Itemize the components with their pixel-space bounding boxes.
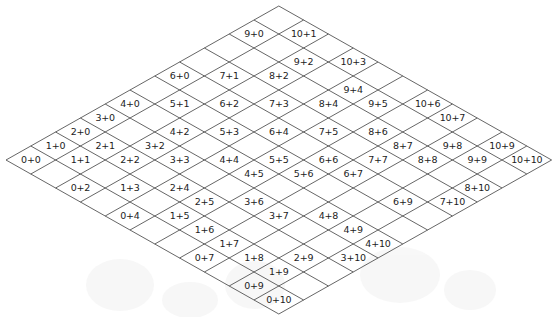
lattice-cell-label: 6+7: [343, 168, 363, 179]
lattice-cell-label: 9+5: [368, 98, 388, 109]
lattice-cell-label: 10+1: [291, 28, 316, 39]
lattice-cell-label: 3+2: [145, 140, 165, 151]
lattice-cell-label: 9+9: [467, 154, 487, 165]
lattice-cell-label: 9+2: [294, 56, 314, 67]
lattice-cell-label: 7+3: [269, 98, 289, 109]
lattice-cell-label: 4+0: [120, 98, 140, 109]
lattice-cell-label: 5+1: [170, 98, 190, 109]
lattice-cell-label: 3+10: [341, 252, 366, 263]
lattice-cell-label: 4+8: [319, 210, 339, 221]
lattice-cell-label: 1+5: [170, 210, 190, 221]
lattice-cell-label: 3+6: [244, 196, 264, 207]
lattice-cell-label: 2+2: [120, 154, 140, 165]
lattice-cell-label: 2+4: [170, 182, 190, 193]
lattice-cell-label: 8+8: [418, 154, 438, 165]
lattice-cell-label: 4+10: [365, 238, 390, 249]
lattice-cell-label: 3+0: [95, 112, 115, 123]
lattice-cell-label: 2+5: [195, 196, 215, 207]
lattice-cell-label: 5+3: [219, 126, 239, 137]
lattice-cell-label: 1+6: [195, 224, 215, 235]
lattice-cell-label: 10+3: [341, 56, 366, 67]
lattice-cell-label: 1+8: [244, 252, 264, 263]
lattice-cell-label: 6+6: [319, 154, 339, 165]
lattice-cell-label: 1+3: [120, 182, 140, 193]
lattice-cell-label: 10+7: [440, 112, 465, 123]
lattice-cell-label: 6+9: [393, 196, 413, 207]
lattice-cell-label: 1+0: [46, 140, 66, 151]
lattice-cell-label: 9+8: [443, 140, 463, 151]
lattice-cell-label: 4+5: [244, 168, 264, 179]
lattice-cell-label: 8+2: [269, 70, 289, 81]
lattice-cell-label: 0+10: [266, 294, 291, 305]
lattice-cell-label: 7+5: [319, 126, 339, 137]
lattice-cell-label: 9+4: [343, 84, 363, 95]
lattice-cell-label: 7+1: [219, 70, 239, 81]
lattice-cell-label: 10+6: [415, 98, 440, 109]
lattice-cell-label: 8+7: [393, 140, 413, 151]
lattice-cell-label: 5+5: [269, 154, 289, 165]
lattice-cell-label: 7+7: [368, 154, 388, 165]
lattice-cell-label: 2+1: [95, 140, 115, 151]
lattice-cell-label: 2+0: [71, 126, 91, 137]
lattice-cell-label: 1+9: [269, 266, 289, 277]
rhombus-lattice-diagram: 0+01+01+10+22+02+12+21+30+43+03+23+32+41…: [0, 0, 556, 317]
lattice-cell-label: 8+10: [465, 182, 490, 193]
lattice-cell-label: 10+9: [489, 140, 514, 151]
lattice-cell-label: 6+0: [170, 70, 190, 81]
lattice-cell-label: 6+2: [219, 98, 239, 109]
lattice-cell-label: 8+6: [368, 126, 388, 137]
lattice-cell-label: 1+7: [219, 238, 239, 249]
lattice-cell-label: 0+9: [244, 280, 264, 291]
lattice-cell-label: 9+0: [244, 28, 264, 39]
lattice-cell-label: 4+2: [170, 126, 190, 137]
lattice-cell-label: 3+7: [269, 210, 289, 221]
lattice-cell-label: 1+1: [71, 154, 91, 165]
lattice-cell-label: 2+9: [294, 252, 314, 263]
lattice-cell-label: 0+0: [21, 154, 41, 165]
lattice-cell-label: 8+4: [319, 98, 339, 109]
lattice-cell-label: 7+10: [440, 196, 465, 207]
addition-lattice-figure: 0+01+01+10+22+02+12+21+30+43+03+23+32+41…: [0, 0, 556, 317]
lattice-cell-label: 3+3: [170, 154, 190, 165]
lattice-cell-label: 5+6: [294, 168, 314, 179]
lattice-cell-label: 0+2: [71, 182, 91, 193]
lattice-cell-label: 10+10: [511, 154, 542, 165]
lattice-cell-label: 4+4: [219, 154, 239, 165]
lattice-cell-label: 0+7: [195, 252, 215, 263]
lattice-cell-label: 6+4: [269, 126, 289, 137]
lattice-cell-label: 4+9: [343, 224, 363, 235]
lattice-cell-label: 0+4: [120, 210, 140, 221]
